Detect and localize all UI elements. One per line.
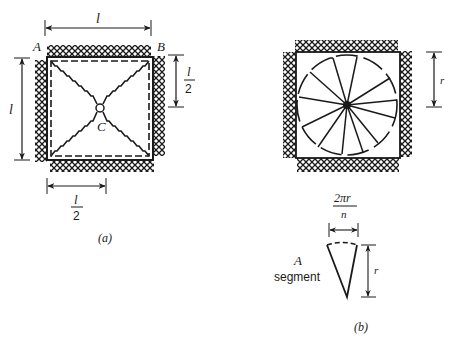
left-height-label: l bbox=[9, 102, 13, 117]
radius-label: r bbox=[440, 74, 445, 86]
support-hatch-left bbox=[35, 60, 47, 162]
support-hatch-bottom bbox=[50, 160, 154, 172]
center-label-c: C bbox=[97, 119, 106, 134]
right-half-denominator: 2 bbox=[185, 82, 192, 96]
support-hatch-bottom bbox=[297, 158, 399, 172]
segment-label-word: segment bbox=[274, 270, 321, 284]
bottom-half-numerator: l bbox=[74, 192, 78, 207]
bottom-half-denominator: 2 bbox=[73, 209, 80, 223]
support-hatch-top bbox=[295, 40, 398, 52]
yield-line-diagram: A B C l l l 2 l 2 (a) bbox=[0, 0, 459, 345]
panel-a: A B C l l l 2 l 2 (a) bbox=[9, 11, 195, 245]
segment-arc bbox=[327, 243, 357, 246]
arc-length-numerator: 2πr bbox=[334, 191, 351, 205]
panel-a-caption: (a) bbox=[98, 231, 112, 245]
support-hatch-right bbox=[400, 51, 412, 157]
corner-label-b: B bbox=[157, 39, 165, 54]
support-hatch-left bbox=[283, 52, 296, 158]
segment-label-a: A bbox=[293, 253, 302, 268]
right-half-numerator: l bbox=[187, 64, 191, 79]
segment-wedge bbox=[327, 245, 357, 297]
center-point-c bbox=[96, 104, 104, 112]
arc-length-denominator: n bbox=[341, 208, 347, 220]
support-hatch-right bbox=[153, 56, 165, 156]
support-hatch-top bbox=[47, 45, 151, 57]
panel-b: r 2πr n r A segment (b) bbox=[274, 40, 445, 334]
fan-center bbox=[343, 101, 351, 109]
top-width-label: l bbox=[96, 11, 100, 26]
corner-label-a: A bbox=[32, 39, 41, 54]
panel-b-caption: (b) bbox=[354, 320, 368, 334]
segment-radius-label: r bbox=[374, 264, 379, 276]
